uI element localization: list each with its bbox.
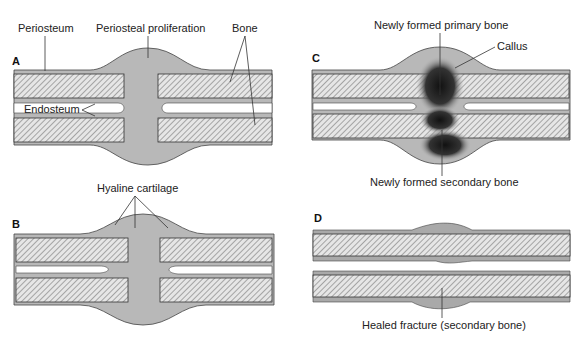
fracture-healing-diagram: A Periosteum Periosteal proliferation Bo… — [0, 0, 585, 345]
panel-a: A Periosteum Periosteal proliferation Bo… — [12, 22, 272, 165]
panel-letter-a: A — [12, 55, 20, 67]
bone-b-lower-right — [160, 278, 272, 302]
label-primary-bone: Newly formed primary bone — [374, 19, 509, 31]
label-secondary-bone: Newly formed secondary bone — [370, 176, 519, 188]
bone-d-lower — [313, 275, 570, 297]
panel-b: B Hyaline cartilage — [12, 182, 274, 325]
panel-d: D Healed fracture (secondary bone) — [313, 212, 570, 331]
label-healed-fracture: Healed fracture (secondary bone) — [362, 319, 526, 331]
bone-upper-right — [158, 74, 272, 98]
panel-letter-b: B — [12, 218, 20, 230]
panel-letter-d: D — [314, 212, 322, 224]
label-endosteum: Endosteum — [24, 103, 80, 115]
medullary-cavity-right — [162, 103, 272, 113]
label-periosteal-proliferation: Periosteal proliferation — [96, 22, 205, 34]
label-callus: Callus — [497, 40, 528, 52]
bone-lower-left — [14, 118, 124, 142]
label-hyaline-cartilage: Hyaline cartilage — [97, 182, 178, 194]
label-periosteum: Periosteum — [18, 22, 74, 34]
bone-d-upper — [313, 234, 570, 256]
label-bone: Bone — [232, 22, 258, 34]
bone-b-upper-right — [160, 238, 272, 262]
panel-letter-c: C — [312, 52, 320, 64]
bone-b-lower-left — [16, 278, 128, 302]
bone-upper-left — [14, 74, 124, 98]
secondary-bone-dark-region — [419, 129, 471, 161]
panel-c: C Newly formed primary bone Callus Newly… — [312, 19, 570, 188]
bone-b-upper-left — [16, 238, 128, 262]
